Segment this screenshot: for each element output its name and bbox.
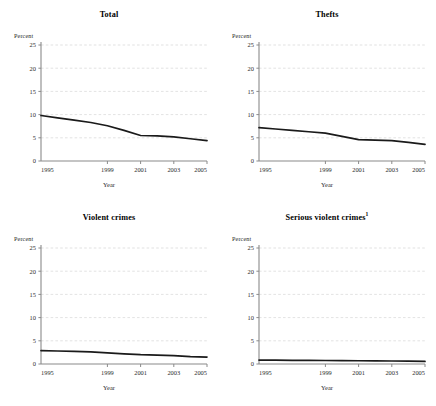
y-tick-label: 0 [251,157,254,164]
y-tick-label: 25 [30,41,36,48]
y-tick-label: 25 [248,244,254,251]
x-tick-label: 2003 [385,369,398,376]
x-axis-label-violent-crimes: Year [0,384,218,391]
plot-area-thefts: 051015202519951999200120032005 [218,0,436,203]
series-line [259,128,425,145]
y-tick-label: 0 [33,360,36,367]
x-tick-label: 2003 [167,369,180,376]
x-tick-label: 1999 [319,369,332,376]
y-tick-label: 5 [33,134,36,141]
y-tick-label: 5 [33,337,36,344]
chart-grid: Total Percent 05101520251995199920012003… [0,0,436,406]
x-tick-label: 1995 [41,369,54,376]
x-tick-label: 2003 [167,166,180,173]
y-tick-label: 15 [248,291,254,298]
x-tick-label: 2003 [385,166,398,173]
x-axis-label-total: Year [0,181,218,188]
plot-area-total: 051015202519951999200120032005 [0,0,218,203]
x-tick-label: 2005 [194,166,207,173]
chart-panel-thefts: Thefts Percent 0510152025199519992001200… [218,0,436,203]
plot-area-serious-violent-crimes: 051015202519951999200120032005 [218,203,436,406]
y-tick-label: 10 [30,314,36,321]
chart-panel-violent-crimes: Violent crimes Percent 05101520251995199… [0,203,218,406]
x-tick-label: 1995 [259,166,272,173]
x-tick-label: 2005 [412,166,425,173]
y-tick-label: 20 [30,268,36,275]
y-tick-label: 15 [30,291,36,298]
series-line [41,116,207,141]
y-tick-label: 25 [30,244,36,251]
plot-area-violent-crimes: 051015202519951999200120032005 [0,203,218,406]
x-tick-label: 1999 [101,166,114,173]
y-tick-label: 5 [251,134,254,141]
y-tick-label: 0 [33,157,36,164]
x-tick-label: 1999 [101,369,114,376]
x-tick-label: 1999 [319,166,332,173]
y-tick-label: 20 [248,65,254,72]
y-tick-label: 10 [248,111,254,118]
chart-panel-serious-violent-crimes: Serious violent crimes1 Percent 05101520… [218,203,436,406]
x-tick-label: 2001 [352,369,365,376]
x-axis-label-serious-violent-crimes: Year [218,384,436,391]
x-tick-label: 2001 [352,166,365,173]
series-line [41,351,207,358]
y-tick-label: 20 [248,268,254,275]
x-tick-label: 2005 [194,369,207,376]
x-tick-label: 2001 [134,166,147,173]
x-tick-label: 2001 [134,369,147,376]
x-tick-label: 1995 [41,166,54,173]
series-line [259,360,425,361]
y-tick-label: 25 [248,41,254,48]
x-tick-label: 1995 [259,369,272,376]
x-axis-label-thefts: Year [218,181,436,188]
y-tick-label: 5 [251,337,254,344]
x-tick-label: 2005 [412,369,425,376]
y-tick-label: 10 [30,111,36,118]
y-tick-label: 10 [248,314,254,321]
chart-panel-total: Total Percent 05101520251995199920012003… [0,0,218,203]
y-tick-label: 15 [30,88,36,95]
y-tick-label: 15 [248,88,254,95]
y-tick-label: 0 [251,360,254,367]
y-tick-label: 20 [30,65,36,72]
